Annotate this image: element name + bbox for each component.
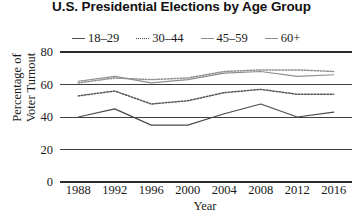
series-line-45-59 <box>78 72 334 83</box>
x-tick-1992: 1992 <box>97 184 133 197</box>
x-tick-1988: 1988 <box>60 184 96 197</box>
gridlines <box>60 52 352 182</box>
x-tick-2016: 2016 <box>316 184 352 197</box>
x-axis-label: Year <box>55 199 355 214</box>
x-tick-2000: 2000 <box>170 184 206 197</box>
x-tick-2012: 2012 <box>279 184 315 197</box>
series-line-18-29 <box>78 104 334 125</box>
chart-container: U.S. Presidential Elections by Age Group… <box>0 0 363 220</box>
y-axis-label: Percentage of Voter Turnout <box>11 28 38 148</box>
x-tick-2004: 2004 <box>206 184 242 197</box>
series-line-30-44 <box>78 89 334 104</box>
x-tick-1996: 1996 <box>133 184 169 197</box>
y-tick-0: 0 <box>27 176 53 189</box>
y-axis-label-text: Percentage of Voter Turnout <box>10 53 38 123</box>
x-tick-2008: 2008 <box>243 184 279 197</box>
